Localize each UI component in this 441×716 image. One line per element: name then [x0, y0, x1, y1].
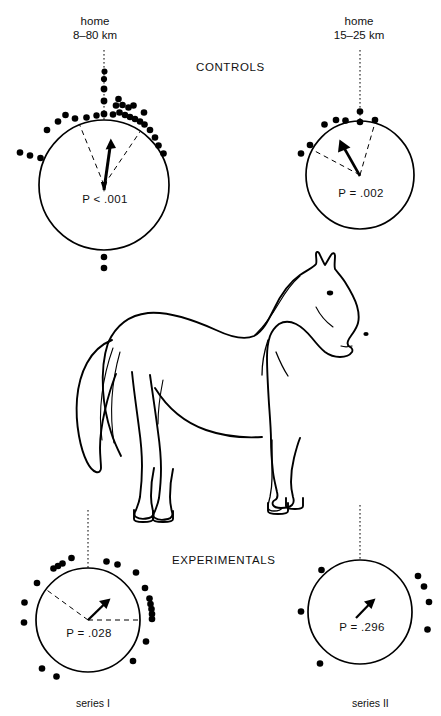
panel-experimental-1	[21, 510, 156, 680]
p-value-control-2: P = .002	[320, 186, 402, 200]
figure-canvas	[0, 0, 441, 716]
home-label-control-1: home 8–80 km	[46, 14, 144, 42]
orientation-circle	[308, 560, 412, 664]
series-label-two: series II	[352, 697, 389, 710]
home-distance: 8–80 km	[46, 28, 144, 42]
figure-root: home 8–80 km home 15–25 km CONTROLS EXPE…	[0, 0, 441, 716]
p-value-experimental-2: P = .296	[320, 620, 404, 634]
p-value-experimental-1: P = .028	[46, 626, 132, 640]
home-label-control-2: home 15–25 km	[310, 14, 408, 42]
home-distance: 15–25 km	[310, 28, 408, 42]
group-label-controls: CONTROLS	[196, 60, 265, 74]
panel-experimental-2	[298, 505, 433, 667]
p-value-control-1: P < .001	[62, 192, 148, 206]
group-label-experimentals: EXPERIMENTALS	[172, 553, 275, 567]
home-word: home	[310, 14, 408, 28]
series-label-one: series I	[76, 697, 110, 710]
home-word: home	[46, 14, 144, 28]
panel-control-1	[17, 50, 169, 271]
horse-line-drawing	[77, 252, 369, 522]
panel-control-2	[298, 50, 414, 229]
